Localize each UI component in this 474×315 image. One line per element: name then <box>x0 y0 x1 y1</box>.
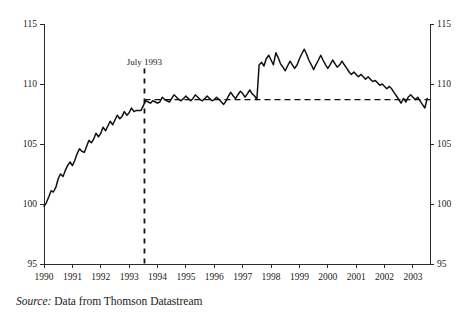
x-tick-label: 1993 <box>120 272 139 282</box>
x-tick-label: 1997 <box>233 272 252 282</box>
y-tick-label-left: 100 <box>23 199 38 209</box>
y-tick-label-right: 100 <box>437 199 452 209</box>
y-tick-label-right: 95 <box>437 259 447 269</box>
y-tick-label-left: 105 <box>23 139 38 149</box>
chart-axes <box>40 24 434 268</box>
y-tick-label-left: 115 <box>23 19 37 29</box>
x-tick-label: 1995 <box>176 272 195 282</box>
y-tick-label-left: 110 <box>23 79 37 89</box>
x-tick-label: 1999 <box>290 272 309 282</box>
source-note: Source: Data from Thomson Datastream <box>16 294 203 308</box>
x-tick-label: 1998 <box>262 272 281 282</box>
x-tick-label: 1990 <box>35 272 54 282</box>
x-tick-label: 2001 <box>347 272 366 282</box>
x-tick-label: 1996 <box>205 272 224 282</box>
source-text: Data from Thomson Datastream <box>51 295 202 307</box>
x-tick-label: 1994 <box>148 272 167 282</box>
source-prefix: Source: <box>16 295 51 307</box>
y-tick-label-right: 110 <box>437 79 451 89</box>
y-tick-label-right: 105 <box>437 139 452 149</box>
chart-series <box>44 49 427 206</box>
y-tick-label-right: 115 <box>437 19 451 29</box>
series-line-index <box>44 49 427 206</box>
x-tick-label: 2002 <box>375 272 394 282</box>
x-tick-label: 2003 <box>403 272 422 282</box>
x-tick-label: 2000 <box>318 272 337 282</box>
chart-tick-labels: 9510010511011595100105110115199019911992… <box>23 19 452 282</box>
line-chart: 9510010511011595100105110115199019911992… <box>0 0 474 315</box>
chart-figure: 9510010511011595100105110115199019911992… <box>0 0 474 315</box>
x-tick-label: 1992 <box>91 272 110 282</box>
x-tick-label: 1991 <box>63 272 82 282</box>
y-tick-label-left: 95 <box>28 259 38 269</box>
july-1993-label: July 1993 <box>127 57 163 67</box>
